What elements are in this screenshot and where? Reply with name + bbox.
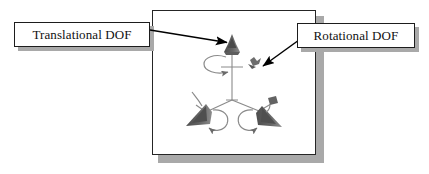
rotational-dof-label: Rotational DOF [314,28,399,44]
diagram-frame [152,10,316,155]
translational-dof-label: Translational DOF [32,27,131,43]
rotational-dof-callout[interactable]: Rotational DOF [297,23,415,48]
translational-dof-callout[interactable]: Translational DOF [14,22,150,47]
figure-canvas: Translational DOF Rotational DOF [0,0,429,174]
